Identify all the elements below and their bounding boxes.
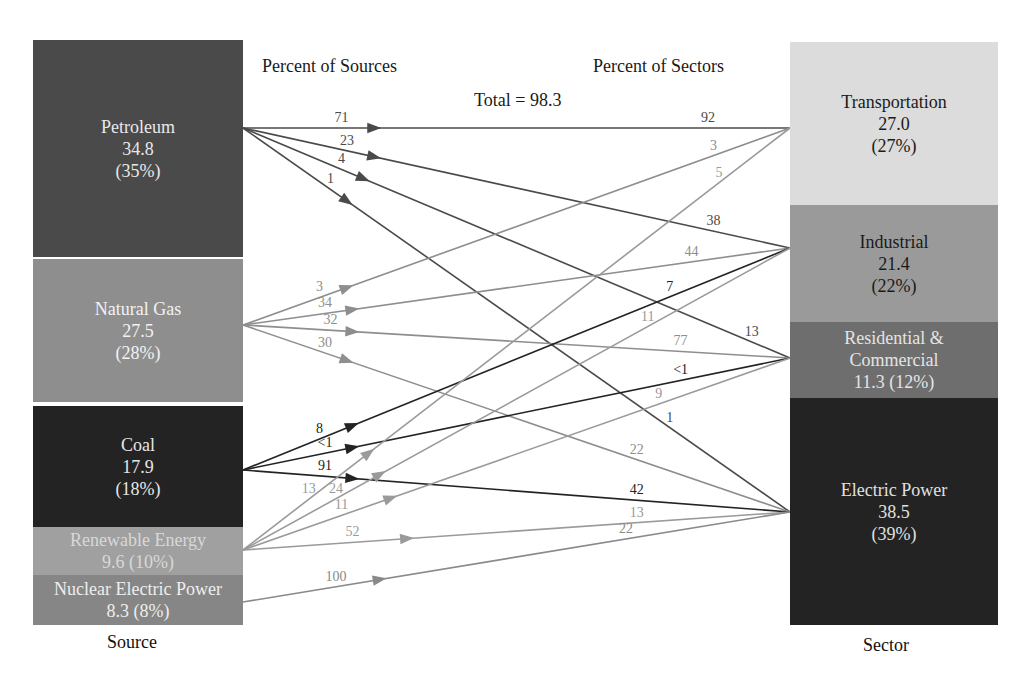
block-value: 27.5 [122,320,154,342]
block-value: 38.5 [878,501,910,523]
percent-of-sector-label: 77 [674,333,688,348]
percent-of-sources-heading: Percent of Sources [262,56,397,77]
percent-of-sector-label: 9 [655,386,662,401]
block-name: Transportation [841,91,946,113]
percent-of-source-label: 11 [335,497,348,512]
arrow-head-icon [382,496,397,506]
arrow-head-icon [344,423,359,433]
flow-renewable-energy-to-industrial: 2411 [243,248,790,550]
percent-of-source-label: 24 [329,481,343,496]
flow-line [243,512,790,550]
arrow-head-icon [339,353,354,363]
block-value: Commercial [850,349,939,371]
block-value: (28%) [116,342,161,364]
percent-of-sector-label: 22 [619,521,633,536]
block-name: Electric Power [841,479,947,501]
percent-of-sector-label: 44 [685,244,699,259]
block-value: (22%) [872,275,917,297]
percent-of-source-label: <1 [318,435,333,450]
percent-of-source-label: 4 [338,151,345,166]
source-block-nuclear-electric-power: Nuclear Electric Power8.3 (8%) [33,575,243,625]
block-name: Renewable Energy [70,529,206,551]
total-label: Total = 98.3 [474,90,561,111]
sector-block-electric-power: Electric Power38.5(39%) [790,398,998,625]
percent-of-sector-label: 11 [641,309,654,324]
arrow-head-icon [355,171,370,181]
block-name: Natural Gas [95,298,181,320]
percent-of-sectors-heading: Percent of Sectors [593,56,724,77]
percent-of-source-label: 32 [324,312,338,327]
block-value: 9.6 (10%) [102,551,174,573]
percent-of-sector-label: 42 [630,482,644,497]
percent-of-sector-label: 3 [710,138,717,153]
percent-of-source-label: 23 [340,133,354,148]
flow-line [243,470,790,512]
arrow-head-icon [344,444,359,454]
block-value: (39%) [872,523,917,545]
arrow-head-icon [339,285,354,295]
source-block-petroleum: Petroleum34.8(35%) [33,40,243,257]
sector-axis-label: Sector [863,635,909,656]
sector-block-residential-commercial: Residential &Commercial11.3 (12%) [790,322,998,398]
block-value: 21.4 [878,253,910,275]
percent-of-source-label: 8 [316,421,323,436]
percent-of-source-label: 52 [345,524,359,539]
percent-of-source-label: 30 [318,335,332,350]
sector-block-transportation: Transportation27.0(27%) [790,42,998,205]
flow-petroleum-to-industrial: 2338 [243,128,790,248]
arrow-head-icon [338,193,352,205]
arrow-head-icon [400,534,414,544]
sector-block-industrial: Industrial21.4(22%) [790,205,998,322]
block-value: (27%) [872,135,917,157]
flow-line [243,512,790,602]
block-value: 34.8 [122,138,154,160]
source-axis-label: Source [107,632,157,653]
percent-of-sector-label: 5 [715,165,722,180]
arrow-head-icon [345,473,359,483]
percent-of-source-label: 100 [325,569,346,584]
percent-of-sector-label: 1 [666,410,673,425]
block-name: Industrial [860,231,929,253]
flow-nuclear-electric-power-to-electric-power: 10022 [243,512,790,602]
percent-of-sector-label: 22 [630,442,644,457]
percent-of-sector-label: 92 [701,110,715,125]
source-block-renewable-energy: Renewable Energy9.6 (10%) [33,527,243,575]
flow-line [243,128,790,248]
flow-line [243,248,790,550]
energy-flow-diagram: 71922338413113334443277302287<1<19142135… [0,0,1030,680]
arrow-head-icon [345,305,360,315]
percent-of-sector-label: 38 [706,213,720,228]
arrow-head-icon [345,326,359,336]
source-block-coal: Coal17.9(18%) [33,406,243,527]
block-name: Coal [121,434,155,456]
percent-of-source-label: 71 [334,110,348,125]
flow-petroleum-to-transportation: 7192 [243,110,790,133]
percent-of-source-label: 91 [318,458,332,473]
percent-of-sector-label: 13 [630,505,644,520]
source-block-natural-gas: Natural Gas27.5(28%) [33,259,243,402]
percent-of-sector-label: <1 [673,362,688,377]
percent-of-source-label: 1 [327,171,334,186]
percent-of-source-label: 13 [302,481,316,496]
percent-of-sector-label: 13 [745,324,759,339]
block-value: 8.3 (8%) [107,600,170,622]
percent-of-sector-label: 7 [666,279,673,294]
block-value: (35%) [116,160,161,182]
block-name: Nuclear Electric Power [54,578,222,600]
arrow-head-icon [360,449,374,462]
block-value: 27.0 [878,113,910,135]
percent-of-source-label: 34 [318,295,332,310]
arrow-head-icon [366,150,381,160]
block-value: 17.9 [122,456,154,478]
block-name: Petroleum [101,116,175,138]
percent-of-source-label: 3 [316,279,323,294]
arrow-head-icon [372,575,387,585]
block-name: Residential & [844,327,943,349]
arrow-head-icon [367,123,381,134]
block-value: (18%) [116,478,161,500]
flow-renewable-energy-to-electric-power: 5213 [243,505,790,550]
block-value: 11.3 (12%) [854,371,934,393]
